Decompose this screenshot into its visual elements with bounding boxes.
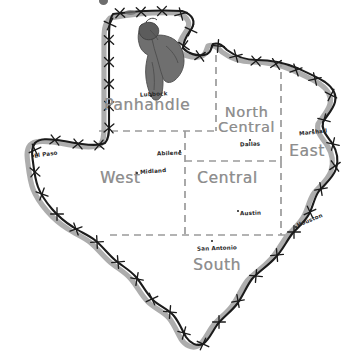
wire-barbs	[29, 6, 340, 349]
texas-region-map: Panhandle North Central East West Centra…	[0, 0, 353, 358]
region-label-east: East	[289, 144, 325, 160]
barbed-wire-outline	[29, 6, 340, 349]
map-canvas	[0, 0, 353, 358]
region-divider-lines	[99, 55, 292, 235]
region-label-central: Central	[197, 171, 258, 187]
bat-hanging-from-wire-icon	[138, 18, 184, 100]
region-label-north-central: North Central	[218, 105, 275, 135]
top-cropped-blob-2	[125, 10, 136, 15]
city-label-austin: Austin	[240, 210, 261, 217]
city-label-dallas: Dallas	[240, 140, 261, 147]
region-label-panhandle: Panhandle	[104, 98, 190, 114]
region-label-north-central-line2: Central	[218, 120, 275, 135]
region-label-west: West	[100, 171, 141, 187]
city-label-abilene: Abilene	[157, 150, 182, 157]
region-label-north-central-line1: North	[218, 105, 275, 120]
region-label-south: South	[193, 258, 241, 274]
